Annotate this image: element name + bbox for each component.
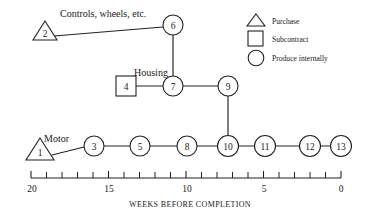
axis-label-20: 20 (27, 184, 37, 194)
axis-label-10: 10 (182, 184, 192, 194)
node-8[interactable]: 8 (177, 136, 197, 156)
node-11-label: 11 (260, 142, 269, 152)
network-diagram: Controls, wheels, etc. Housing Motor 2 6… (0, 0, 373, 213)
axis-label-15: 15 (104, 184, 114, 194)
node-6[interactable]: 6 (163, 15, 183, 35)
node-4-label: 4 (124, 82, 129, 92)
node-7-label: 7 (171, 82, 176, 92)
triangle-icon (247, 14, 265, 26)
axis-label-0: 0 (339, 184, 344, 194)
time-axis: 20 15 10 5 0 WEEKS BEFORE COMPLETION (27, 171, 343, 209)
edge-2-6 (54, 27, 163, 36)
axis-ticks (47, 171, 326, 178)
legend-label-subcontract: Subcontract (272, 35, 309, 44)
node-12-label: 12 (305, 142, 315, 152)
circle-icon (248, 50, 264, 66)
node-10-label: 10 (223, 142, 233, 152)
node-2-label: 2 (43, 29, 48, 39)
node-9[interactable]: 9 (218, 76, 238, 96)
node-8-label: 8 (185, 142, 190, 152)
edge-label-housing: Housing (134, 67, 168, 78)
legend-entry-subcontract: Subcontract (248, 31, 309, 46)
legend-entry-purchase: Purchase (247, 14, 300, 26)
node-7[interactable]: 7 (163, 76, 183, 96)
axis-tick-labels: 20 15 10 5 0 (27, 184, 343, 194)
edge-label-motor: Motor (44, 133, 70, 144)
axis-label-5: 5 (262, 184, 267, 194)
diagram-canvas: Controls, wheels, etc. Housing Motor 2 6… (0, 0, 373, 213)
node-6-label: 6 (171, 21, 176, 31)
node-4[interactable]: 4 (116, 76, 136, 96)
edge-label-controls: Controls, wheels, etc. (60, 8, 146, 19)
node-9-label: 9 (226, 82, 231, 92)
edge-1-3 (52, 147, 84, 155)
node-11[interactable]: 11 (255, 136, 276, 157)
node-10[interactable]: 10 (218, 136, 239, 157)
node-13[interactable]: 13 (331, 136, 352, 157)
legend-label-purchase: Purchase (272, 17, 300, 26)
node-3[interactable]: 3 (84, 136, 104, 156)
node-5-label: 5 (138, 142, 143, 152)
axis-caption: WEEKS BEFORE COMPLETION (129, 200, 251, 209)
square-icon (248, 31, 263, 46)
node-12[interactable]: 12 (300, 136, 321, 157)
legend-entry-produce: Produce internally (248, 50, 328, 66)
node-13-label: 13 (336, 142, 346, 152)
node-5[interactable]: 5 (130, 136, 150, 156)
node-1-label: 1 (38, 148, 43, 158)
legend: Purchase Subcontract Produce internally (247, 14, 328, 66)
node-2[interactable]: 2 (33, 21, 57, 40)
legend-label-produce: Produce internally (272, 54, 328, 63)
node-3-label: 3 (92, 142, 97, 152)
